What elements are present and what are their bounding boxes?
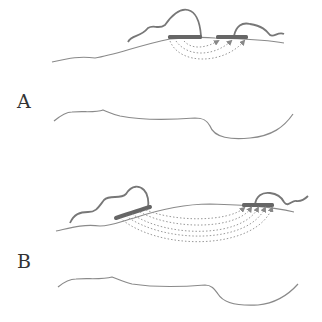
transfer-arrow [120, 208, 272, 242]
patch-block [116, 207, 150, 218]
patch-block [242, 203, 274, 207]
panel-b-bottom-line [58, 277, 298, 305]
transfer-arrow [184, 41, 218, 47]
panel-a-bottom-line [54, 110, 293, 139]
transfer-arrow [170, 41, 244, 59]
diagram-canvas [0, 0, 322, 322]
transfer-arrow [126, 208, 265, 236]
panel-b-top [56, 187, 308, 242]
transfer-arrow [140, 208, 251, 225]
wave-line-right [234, 24, 284, 37]
panel-a-top [52, 10, 284, 62]
transfer-arrow [146, 208, 244, 219]
ground-line [52, 37, 284, 62]
patch-block [216, 35, 248, 39]
patch-block [168, 35, 202, 39]
